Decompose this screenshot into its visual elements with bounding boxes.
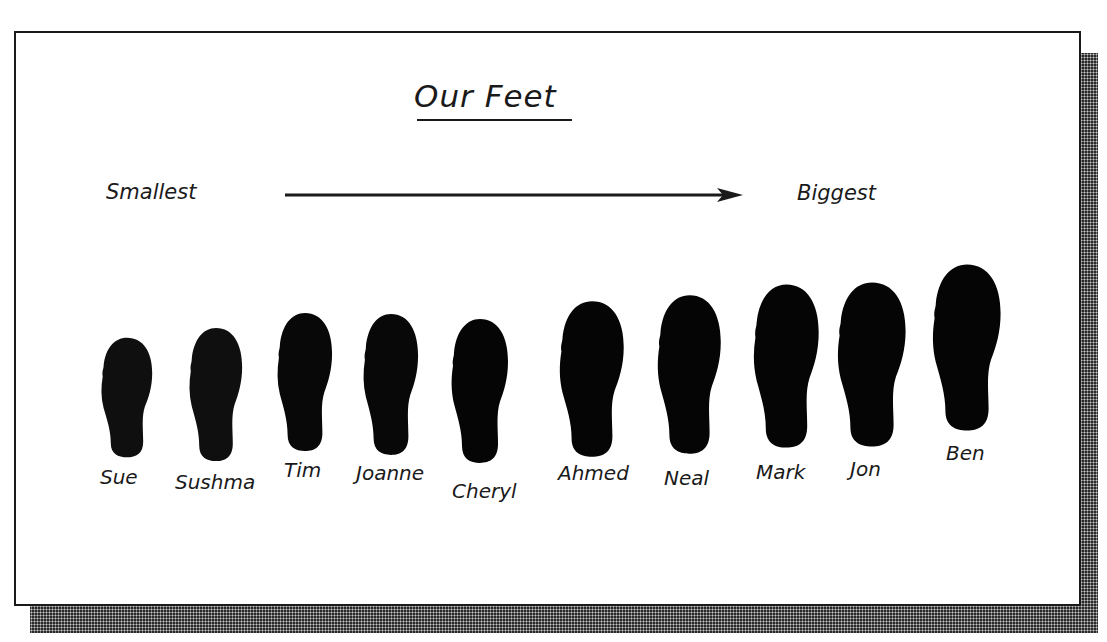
biggest-label: Biggest — [797, 181, 876, 205]
footprint-neal — [656, 293, 723, 456]
name-label: Jon — [850, 457, 881, 481]
name-label: Tim — [284, 458, 321, 482]
footprint-cheryl — [450, 317, 510, 465]
name-label: Joanne — [356, 461, 424, 485]
name-label: Ahmed — [558, 461, 629, 485]
page-title: Our Feet — [414, 78, 557, 114]
footprint-ben — [931, 262, 1003, 433]
footprint-sue — [100, 336, 154, 459]
name-label: Sushma — [175, 470, 255, 494]
title-underline — [417, 119, 572, 121]
name-label: Cheryl — [452, 479, 517, 503]
name-label: Mark — [756, 460, 805, 484]
footprint-jon — [836, 280, 908, 449]
arrow-right-icon — [285, 185, 745, 205]
footprint-ahmed — [558, 299, 626, 459]
name-label: Neal — [664, 466, 709, 490]
footprint-joanne — [362, 312, 420, 457]
name-label: Ben — [946, 441, 985, 465]
footprint-mark — [752, 282, 821, 450]
name-label: Sue — [100, 465, 138, 489]
poster-card — [14, 31, 1081, 606]
smallest-label: Smallest — [106, 180, 196, 204]
footprint-sushma — [188, 326, 244, 463]
footprint-tim — [276, 311, 334, 453]
